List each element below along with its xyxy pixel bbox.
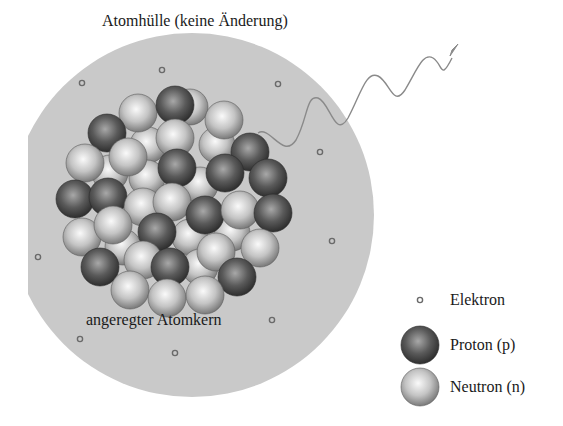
- nucleus-label: angeregter Atomkern: [86, 311, 222, 329]
- neutron-icon: [186, 276, 224, 314]
- photon-arrowhead-icon: [450, 44, 458, 56]
- proton-icon: [156, 86, 194, 124]
- proton-icon: [81, 248, 119, 286]
- neutron-icon: [94, 206, 132, 244]
- proton-icon: [206, 154, 244, 192]
- legend-label-proton: Proton (p): [450, 336, 515, 354]
- legend-item-neutron: Neutron (n): [400, 367, 525, 407]
- proton-icon: [158, 149, 196, 187]
- shell-label: Atomhülle (keine Änderung): [102, 12, 288, 30]
- proton-icon: [249, 159, 287, 197]
- proton-icon: [186, 196, 224, 234]
- legend-item-electron: Elektron: [400, 290, 505, 310]
- legend-item-proton: Proton (p): [400, 325, 515, 365]
- neutron-icon: [66, 144, 104, 182]
- legend-label-neutron: Neutron (n): [450, 378, 525, 396]
- proton-icon: [400, 325, 440, 365]
- electron-icon: [400, 290, 440, 310]
- proton-icon: [254, 194, 292, 232]
- neutron-icon: [205, 101, 243, 139]
- neutron-icon: [111, 271, 149, 309]
- neutron-icon: [400, 367, 440, 407]
- neutron-icon: [109, 138, 147, 176]
- legend-label-electron: Elektron: [450, 291, 505, 309]
- neutron-icon: [221, 191, 259, 229]
- proton-icon: [56, 180, 94, 218]
